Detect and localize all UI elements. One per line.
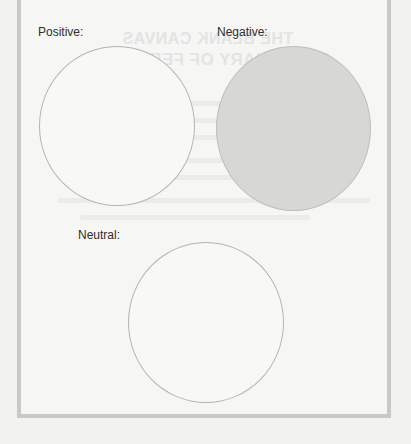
negative-circle: [216, 46, 371, 211]
neutral-label: Neutral:: [78, 228, 120, 242]
negative-label: Negative:: [217, 25, 268, 39]
positive-label: Positive:: [38, 25, 83, 39]
positive-circle: [39, 46, 195, 206]
neutral-circle: [128, 242, 284, 403]
bleed-through-line: [80, 215, 310, 220]
scanned-page: THE BLANK CANVAS DICTIONARY OF FEELINGS …: [0, 0, 411, 444]
